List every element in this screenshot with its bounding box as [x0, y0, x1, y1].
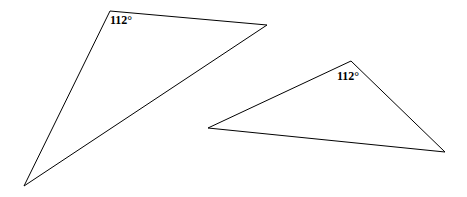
angle-label-1: 112°	[110, 13, 132, 27]
triangle-2	[208, 61, 445, 152]
diagram-canvas: 112° 112°	[0, 0, 467, 197]
triangle-1	[24, 11, 267, 186]
angle-label-2: 112°	[337, 69, 359, 83]
